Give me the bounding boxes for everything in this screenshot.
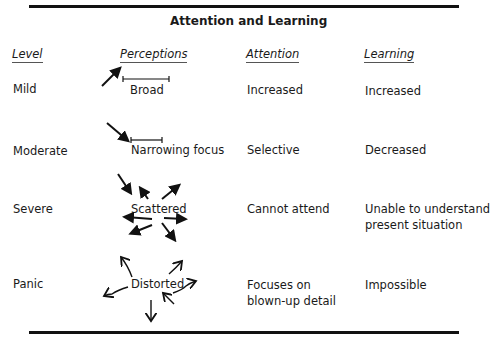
bottom-rule bbox=[29, 331, 459, 334]
perception-arrows-icon bbox=[0, 0, 501, 349]
